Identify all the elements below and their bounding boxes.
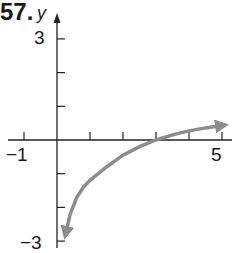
log-curve: [66, 126, 222, 234]
x-tick-label-neg1: −1: [6, 145, 28, 164]
y-tick-label-neg3: −3: [20, 233, 42, 252]
y-axis-label: y: [37, 4, 46, 22]
y-tick-label-3: 3: [34, 28, 45, 47]
x-tick-label-5: 5: [211, 145, 222, 164]
y-axis-arrow-icon: [54, 13, 61, 23]
